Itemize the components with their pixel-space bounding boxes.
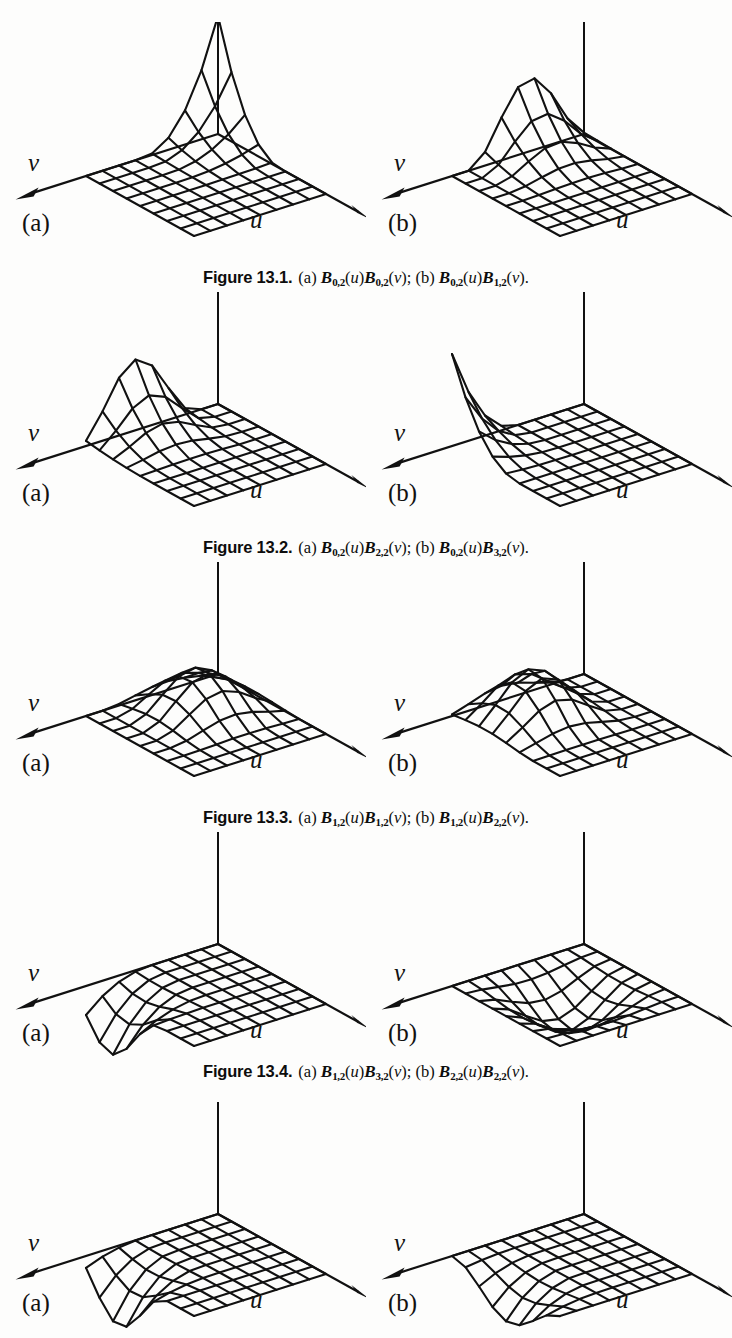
surface-plot (366, 562, 732, 792)
figure-panel: vu(a) (0, 832, 366, 1062)
panel-tag-a: (a) (22, 480, 50, 505)
figure-caption-number: Figure 13.1. (203, 268, 292, 286)
axis-label-v: v (394, 690, 405, 715)
axis-label-u: u (616, 477, 629, 502)
panel-tag-a: (a) (22, 1020, 50, 1045)
axis-label-v: v (394, 1230, 405, 1255)
axis-label-u: u (250, 747, 263, 772)
figure-panel: vu(b) (366, 832, 732, 1062)
figure-caption-formula: (a) B1,2(u)B1,2(v); (b) B1,2(u)B2,2(v). (298, 808, 529, 827)
figure-panel: vu(a) (0, 1102, 366, 1332)
figure-row: vu(a)vu(b) (0, 22, 732, 252)
figure-caption: Figure 13.4.(a) B1,2(u)B3,2(v); (b) B2,2… (0, 1062, 732, 1082)
figure-panel: vu(b) (366, 562, 732, 792)
surface-plot (366, 292, 732, 522)
axis-label-u: u (616, 1287, 629, 1312)
axis-label-v: v (28, 960, 39, 985)
panel-tag-b: (b) (388, 210, 417, 235)
figure-caption: Figure 13.2.(a) B0,2(u)B2,2(v); (b) B0,2… (0, 538, 732, 558)
figure-row: vu(a)vu(b) (0, 832, 732, 1062)
figure-panel: vu(b) (366, 292, 732, 522)
axis-label-u: u (616, 747, 629, 772)
panel-tag-a: (a) (22, 1290, 50, 1315)
axis-label-v: v (28, 420, 39, 445)
surface-plot (0, 22, 366, 252)
panel-tag-b: (b) (388, 1290, 417, 1315)
axis-label-v: v (28, 1230, 39, 1255)
axis-label-v: v (28, 690, 39, 715)
figure-panel: vu(a) (0, 562, 366, 792)
figure-row: vu(a)vu(b) (0, 1102, 732, 1332)
surface-plot (366, 1102, 732, 1332)
figure-caption-number: Figure 13.4. (203, 1062, 292, 1080)
figure-caption-formula: (a) B0,2(u)B0,2(v); (b) B0,2(u)B1,2(v). (298, 268, 529, 287)
axis-label-u: u (250, 1017, 263, 1042)
axis-label-v: v (28, 150, 39, 175)
axis-label-u: u (250, 207, 263, 232)
axis-label-u: u (616, 207, 629, 232)
figure-caption-number: Figure 13.2. (203, 538, 292, 556)
panel-tag-a: (a) (22, 750, 50, 775)
figure-panel: vu(a) (0, 22, 366, 252)
figure-caption-formula: (a) B1,2(u)B3,2(v); (b) B2,2(u)B2,2(v). (298, 1062, 529, 1081)
surface-plot (366, 22, 732, 252)
axis-label-u: u (250, 477, 263, 502)
axis-label-u: u (616, 1017, 629, 1042)
figure-caption-number: Figure 13.3. (203, 808, 292, 826)
surface-plot (0, 562, 366, 792)
document-page: vu(a)vu(b)Figure 13.1.(a) B0,2(u)B0,2(v)… (0, 0, 732, 1338)
figure-panel: vu(b) (366, 22, 732, 252)
axis-label-v: v (394, 960, 405, 985)
panel-tag-b: (b) (388, 750, 417, 775)
surface-plot (0, 292, 366, 522)
panel-tag-b: (b) (388, 1020, 417, 1045)
figure-row: vu(a)vu(b) (0, 562, 732, 792)
figure-caption: Figure 13.1.(a) B0,2(u)B0,2(v); (b) B0,2… (0, 268, 732, 288)
surface-plot (0, 1102, 366, 1332)
figure-panel: vu(a) (0, 292, 366, 522)
axis-label-v: v (394, 420, 405, 445)
figure-row: vu(a)vu(b) (0, 292, 732, 522)
surface-plot (366, 832, 732, 1062)
panel-tag-b: (b) (388, 480, 417, 505)
figure-caption-formula: (a) B0,2(u)B2,2(v); (b) B0,2(u)B3,2(v). (298, 538, 529, 557)
panel-tag-a: (a) (22, 210, 50, 235)
axis-label-u: u (250, 1287, 263, 1312)
figure-panel: vu(b) (366, 1102, 732, 1332)
axis-label-v: v (394, 150, 405, 175)
surface-plot (0, 832, 366, 1062)
figure-caption: Figure 13.3.(a) B1,2(u)B1,2(v); (b) B1,2… (0, 808, 732, 828)
